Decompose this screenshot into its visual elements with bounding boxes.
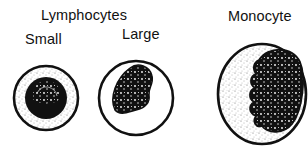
monocyte-cell: [218, 44, 306, 144]
small-lymphocyte-cell: [14, 66, 78, 130]
large-lymphocyte-cell: [99, 61, 173, 135]
cell-illustration: [0, 0, 308, 150]
